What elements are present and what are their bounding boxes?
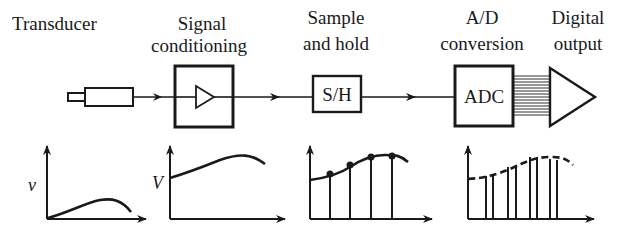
digital-output-icon	[550, 68, 595, 126]
ad-conversion-label-line2: conversion	[440, 33, 524, 54]
digital-output-label-line2: output	[554, 33, 603, 54]
adc-graph	[468, 146, 594, 219]
adc-box-text: ADC	[464, 86, 504, 107]
transducer-label: Transducer	[12, 13, 97, 34]
amplifier-icon	[196, 86, 214, 108]
conditioning-graph-y-label: V	[152, 173, 165, 193]
sample-hold-box-text: S/H	[322, 84, 352, 105]
signal-conditioning-label-line1: Signal	[178, 13, 227, 34]
ad-conversion-label-line1: A/D	[466, 7, 499, 28]
transducer-icon	[68, 88, 133, 106]
waveform-graphs	[47, 146, 594, 219]
sample-hold-label-line2: and hold	[303, 33, 369, 54]
digital-output-label-line1: Digital	[552, 7, 605, 28]
sample-hold-graph	[310, 146, 432, 219]
transducer-graph-y-label: v	[28, 175, 36, 195]
conditioning-graph	[170, 146, 285, 219]
sample-hold-label-line1: Sample	[308, 7, 365, 28]
signal-chain-diagram: Transducer Signal conditioning Sample an…	[0, 0, 630, 234]
parallel-data-bus	[513, 76, 550, 115]
signal-conditioning-label-line2: conditioning	[151, 35, 248, 56]
transducer-graph	[47, 146, 146, 219]
